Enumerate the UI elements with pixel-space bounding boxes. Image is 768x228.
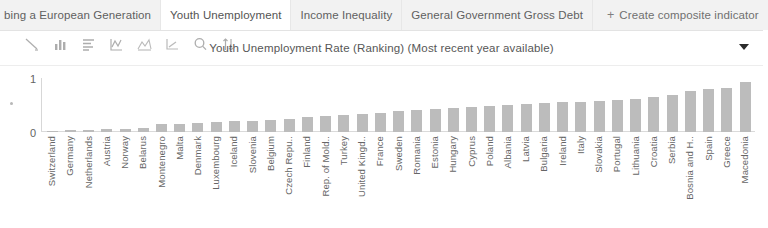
bar[interactable] xyxy=(430,109,441,132)
x-axis-label: Turkey xyxy=(339,136,349,165)
bar-cell xyxy=(298,78,316,132)
tab-youth-unemployment[interactable]: Youth Unemployment xyxy=(161,0,291,30)
bar[interactable] xyxy=(302,117,313,132)
bar[interactable] xyxy=(284,119,295,133)
bar[interactable] xyxy=(120,129,131,132)
bar-cell xyxy=(408,78,426,132)
bar-cell xyxy=(152,78,170,132)
line-chart-icon[interactable] xyxy=(108,36,125,53)
x-axis-label-cell: Iceland xyxy=(225,136,243,228)
bar[interactable] xyxy=(612,100,623,132)
x-axis-label: Hungary xyxy=(448,136,458,173)
tab-european-generation[interactable]: bing a European Generation xyxy=(0,0,161,30)
bar[interactable] xyxy=(247,121,258,132)
x-axis-label-cell: Macedonia xyxy=(736,136,754,228)
x-axis-label-cell: Bulgaria xyxy=(535,136,553,228)
bar[interactable] xyxy=(138,128,149,132)
bar[interactable] xyxy=(411,110,422,132)
bar[interactable] xyxy=(630,99,641,132)
bar[interactable] xyxy=(502,105,513,132)
bar-cell xyxy=(590,78,608,132)
x-axis-label-cell: Spain xyxy=(699,136,717,228)
bar[interactable] xyxy=(192,123,203,132)
create-composite-indicator-label: Create composite indicator xyxy=(619,9,758,21)
bar[interactable] xyxy=(740,82,751,132)
bar-cell xyxy=(645,78,663,132)
x-axis-label: Poland xyxy=(485,136,495,166)
x-axis-label: Luxembourg xyxy=(211,136,221,190)
bar[interactable] xyxy=(47,131,58,132)
bar-cell xyxy=(116,78,134,132)
x-axis-label: Norway xyxy=(120,136,130,169)
bar[interactable] xyxy=(101,129,112,132)
bar[interactable] xyxy=(703,89,714,132)
x-axis-label: Belgium xyxy=(266,136,276,171)
bar[interactable] xyxy=(156,124,167,132)
x-axis-label: Portugal xyxy=(612,136,622,172)
bar[interactable] xyxy=(448,108,459,132)
bar-cell xyxy=(353,78,371,132)
x-axis-label: Spain xyxy=(704,136,714,161)
bar[interactable] xyxy=(594,101,605,132)
bar-cell xyxy=(499,78,517,132)
bar[interactable] xyxy=(466,107,477,132)
bar[interactable] xyxy=(320,116,331,132)
x-axis-label-cell: Estonia xyxy=(426,136,444,228)
x-axis-label-cell: Switzerland xyxy=(43,136,61,228)
bar[interactable] xyxy=(575,102,586,132)
ranking-bar-chart: 1 0 SwitzerlandGermanyNetherlandsAustria… xyxy=(0,66,763,228)
chevron-down-icon[interactable] xyxy=(739,44,749,50)
bar-cell xyxy=(426,78,444,132)
scatter-chart-icon[interactable] xyxy=(164,36,181,53)
bar-cell xyxy=(718,78,736,132)
tab-general-government-gross-debt[interactable]: General Government Gross Debt xyxy=(402,0,593,30)
bar[interactable] xyxy=(667,95,678,132)
bar[interactable] xyxy=(338,115,349,132)
x-axis-label: Macedonia xyxy=(740,136,750,183)
x-axis-label-cell: Luxembourg xyxy=(207,136,225,228)
x-axis-label-cell: United Kingd.. xyxy=(353,136,371,228)
x-axis-label: Netherlands xyxy=(84,136,94,188)
line-tool-icon[interactable] xyxy=(24,36,41,53)
bar-chart-icon[interactable] xyxy=(52,36,69,53)
bar[interactable] xyxy=(557,102,568,132)
bar[interactable] xyxy=(265,120,276,132)
tab-income-inequality[interactable]: Income Inequality xyxy=(291,0,402,30)
bar[interactable] xyxy=(375,113,386,132)
x-axis-label-cell: Denmark xyxy=(189,136,207,228)
bar[interactable] xyxy=(648,97,659,132)
x-axis-label-cell: Serbia xyxy=(663,136,681,228)
area-chart-icon[interactable] xyxy=(136,36,153,53)
bar[interactable] xyxy=(65,130,76,132)
x-axis-label: Ireland xyxy=(558,136,568,166)
horizontal-bar-chart-icon[interactable] xyxy=(80,36,97,53)
x-axis-label: Germany xyxy=(65,136,75,176)
bar[interactable] xyxy=(521,104,532,132)
x-axis-label-cell: Slovakia xyxy=(590,136,608,228)
sort-icon[interactable] xyxy=(220,36,237,53)
bar[interactable] xyxy=(393,111,404,132)
tab-label: Income Inequality xyxy=(300,9,392,21)
bar[interactable] xyxy=(685,91,696,132)
bar[interactable] xyxy=(83,130,94,132)
bar[interactable] xyxy=(539,103,550,132)
x-axis-label: Cyprus xyxy=(467,136,477,167)
bar[interactable] xyxy=(721,88,732,132)
bar[interactable] xyxy=(484,106,495,132)
x-axis-label-cell: Greece xyxy=(718,136,736,228)
create-composite-indicator-button[interactable]: + Create composite indicator xyxy=(593,0,768,30)
bar[interactable] xyxy=(229,121,240,132)
axis-marker-dot xyxy=(10,102,13,105)
x-axis-label: Lithuania xyxy=(631,136,641,175)
x-axis-label-cell: Lithuania xyxy=(627,136,645,228)
x-axis-label-cell: Montenegro xyxy=(152,136,170,228)
zoom-search-icon[interactable] xyxy=(192,36,209,53)
bar[interactable] xyxy=(174,124,185,132)
bar[interactable] xyxy=(357,114,368,132)
bar[interactable] xyxy=(211,122,222,132)
bar-cell xyxy=(627,78,645,132)
x-axis-label: Greece xyxy=(722,136,732,168)
x-axis-label-cell: Czech Repu.. xyxy=(280,136,298,228)
bar-cell xyxy=(554,78,572,132)
x-axis-label: Croatia xyxy=(649,136,659,167)
